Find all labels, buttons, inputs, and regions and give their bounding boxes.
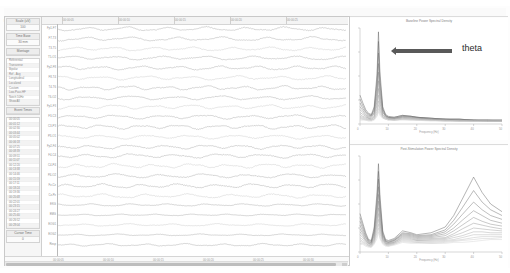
channel-waveform — [58, 93, 346, 103]
sidebar-panel-value-0[interactable]: 100 — [7, 25, 39, 30]
channel-row[interactable]: F8-T4 — [42, 73, 348, 83]
channel-row[interactable]: EKG — [42, 200, 348, 210]
cursor-time-panel: Cursor Time0 — [6, 230, 40, 243]
spectrum-title-baseline: Baseline Power Spectral Density — [350, 19, 508, 23]
channel-row[interactable]: P4-O2 — [42, 171, 348, 181]
channel-row[interactable]: T5-O1 — [42, 53, 348, 63]
sidebar-panel-1[interactable]: Time Base30 mm — [6, 33, 40, 46]
spectrum-plot-area-1 — [350, 146, 508, 268]
channel-label: F8-T4 — [43, 75, 56, 79]
channel-waveform — [58, 44, 346, 54]
spectrum-xtick-label: 20 — [414, 127, 417, 131]
scrollbar-end-button[interactable] — [342, 263, 347, 266]
trace-viewport[interactable]: 00:00:0500:00:1000:00:1500:00:2000:00:25… — [42, 17, 348, 265]
ruler-tick-label: 00:00:15 — [175, 18, 186, 22]
channel-label: Fp2-F4 — [43, 144, 56, 148]
event-time-item[interactable]: 00:28:04 — [7, 224, 39, 229]
montage-list-item[interactable]: Show All — [7, 100, 39, 105]
eeg-window: Scale (uV)100Time Base30 mmMontageRefere… — [4, 16, 350, 266]
channel-waveform — [58, 161, 346, 171]
spectrum-xtick-label: 40 — [471, 127, 474, 131]
channel-row[interactable]: Fp1-F7 — [42, 24, 348, 34]
channel-label: EOG2 — [43, 232, 56, 236]
spectrum-xtick-label: 30 — [442, 127, 445, 131]
channel-label: Fz-Cz — [43, 183, 56, 187]
channel-waveform — [58, 73, 346, 83]
spectrum-xtick-label: 20 — [414, 255, 417, 259]
channel-row[interactable]: Fp2-F4 — [42, 142, 348, 152]
sidebar-panel-value-1[interactable]: 30 mm — [7, 40, 39, 45]
events-panel: Event Times — [6, 107, 40, 115]
channel-label: Resp — [43, 242, 56, 246]
channel-row[interactable]: T6-O2 — [42, 93, 348, 103]
channel-waveform — [58, 34, 346, 44]
channel-row[interactable]: C3-P3 — [42, 122, 348, 132]
channel-row[interactable]: F4-C4 — [42, 151, 348, 161]
channel-row[interactable]: Cz-Pz — [42, 191, 348, 201]
channel-waveform — [58, 240, 346, 250]
spectrum-chart-baseline[interactable]: Baseline Power Spectral Density Frequenc… — [350, 18, 508, 140]
channel-row[interactable]: F7-T3 — [42, 34, 348, 44]
channel-waveform — [58, 132, 346, 142]
control-sidebar: Scale (uV)100Time Base30 mmMontageRefere… — [5, 17, 42, 265]
channel-waveform — [58, 191, 346, 201]
event-time-list[interactable]: 00:00:0500:01:1200:02:3000:03:4400:05:02… — [6, 117, 40, 229]
channel-label: T3-T5 — [43, 46, 56, 50]
spectrum-xtick-label: 50 — [499, 255, 502, 259]
spectrum-xtick-label: 30 — [442, 255, 445, 259]
sidebar-panel-0[interactable]: Scale (uV)100 — [6, 18, 40, 31]
channel-row[interactable]: Resp — [42, 240, 348, 250]
channel-waveform — [58, 220, 346, 230]
channel-waveform — [58, 122, 346, 132]
channel-waveform — [58, 142, 346, 152]
channel-row[interactable]: P3-O1 — [42, 132, 348, 142]
spectrum-xtick-label: 50 — [499, 127, 502, 131]
channel-waveform — [58, 171, 346, 181]
channel-row[interactable]: EOG2 — [42, 230, 348, 240]
panel-divider-top — [350, 16, 508, 17]
channel-waveform — [58, 200, 346, 210]
channel-label: P3-O1 — [43, 134, 56, 138]
channel-row[interactable]: EMG — [42, 210, 348, 220]
channel-row[interactable]: Fp1-F3 — [42, 102, 348, 112]
channel-row[interactable]: Fp2-F8 — [42, 63, 348, 73]
channel-label: Fp1-F7 — [43, 26, 56, 30]
theta-annotation-label: theta — [462, 43, 482, 53]
channel-label: EMG — [43, 212, 56, 216]
channel-label: EOG1 — [43, 222, 56, 226]
channel-waveform — [58, 112, 346, 122]
scrollbar-thumb[interactable] — [6, 263, 336, 266]
channel-row[interactable]: C4-P4 — [42, 161, 348, 171]
channel-waveform — [58, 63, 346, 73]
montage-list[interactable]: ReferentialTransverseBipolarRef - AvgLon… — [6, 58, 40, 106]
channel-stack[interactable]: Fp1-F7F7-T3T3-T5T5-O1Fp2-F8F8-T4T4-T6T6-… — [42, 24, 348, 256]
channel-waveform — [58, 83, 346, 93]
spectrum-chart-poststim[interactable]: Post-Stimulation Power Spectral Density … — [350, 146, 508, 268]
channel-waveform — [58, 102, 346, 112]
spectrum-xtick-label: 40 — [471, 255, 474, 259]
channel-waveform — [58, 151, 346, 161]
channel-label: C3-P3 — [43, 124, 56, 128]
spectrum-xtick-label: 0 — [357, 127, 359, 131]
spectrum-xlabel-baseline: Frequency (Hz) — [350, 130, 508, 134]
channel-label: P4-O2 — [43, 173, 56, 177]
channel-label: Fp2-F8 — [43, 65, 56, 69]
channel-row[interactable]: F3-C3 — [42, 112, 348, 122]
horizontal-scrollbar[interactable] — [5, 261, 348, 266]
channel-row[interactable]: Fz-Cz — [42, 181, 348, 191]
channel-waveform — [58, 230, 346, 240]
events-header: Event Times — [7, 108, 39, 114]
channel-label: T5-O1 — [43, 55, 56, 59]
spectrum-xlabel-poststim: Frequency (Hz) — [350, 258, 508, 262]
channel-row[interactable]: T3-T5 — [42, 44, 348, 54]
spectra-panel: Baseline Power Spectral Density Frequenc… — [350, 16, 508, 264]
spectrum-xtick-label: 10 — [385, 127, 388, 131]
channel-row[interactable]: EOG1 — [42, 220, 348, 230]
spectrum-plot-area-0 — [350, 18, 508, 140]
cursor-time-value[interactable]: 0 — [7, 237, 39, 242]
sidebar-panel-2[interactable]: Montage — [6, 48, 40, 56]
channel-row[interactable]: T4-T6 — [42, 83, 348, 93]
spectrum-xtick-label: 0 — [357, 255, 359, 259]
ruler-tick-label: 00:00:05 — [63, 18, 74, 22]
spectrum-title-poststim: Post-Stimulation Power Spectral Density — [350, 147, 508, 151]
